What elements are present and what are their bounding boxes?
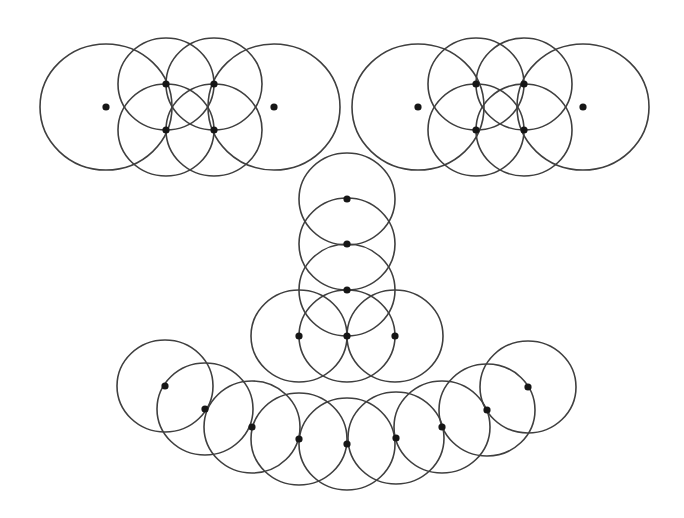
center-dot	[524, 383, 531, 390]
center-dot	[483, 406, 490, 413]
center-dot	[161, 382, 168, 389]
center-dot	[520, 80, 527, 87]
center-dot	[162, 126, 169, 133]
center-dot	[162, 80, 169, 87]
background	[0, 0, 684, 518]
center-dot	[295, 435, 302, 442]
center-dot	[392, 434, 399, 441]
circle-diagram	[0, 0, 684, 518]
center-dot	[391, 332, 398, 339]
center-dot	[248, 423, 255, 430]
center-dot	[270, 103, 277, 110]
center-dot	[343, 440, 350, 447]
center-dot	[201, 405, 208, 412]
center-dot	[343, 286, 350, 293]
center-dot	[295, 332, 302, 339]
center-dot	[343, 240, 350, 247]
center-dot	[343, 332, 350, 339]
center-dot	[579, 103, 586, 110]
center-dot	[472, 126, 479, 133]
center-dot	[210, 80, 217, 87]
center-dot	[472, 80, 479, 87]
center-dot	[520, 126, 527, 133]
center-dot	[438, 423, 445, 430]
center-dot	[210, 126, 217, 133]
center-dot	[102, 103, 109, 110]
center-dot	[343, 195, 350, 202]
center-dot	[414, 103, 421, 110]
